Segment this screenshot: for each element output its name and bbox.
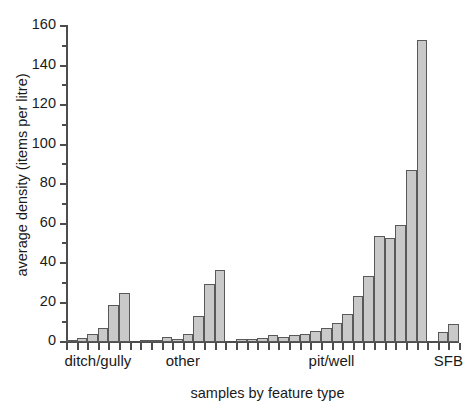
bar (321, 328, 332, 342)
bar (363, 276, 374, 342)
bar (332, 323, 343, 342)
x-tick-mark (321, 343, 323, 350)
x-tick-mark (385, 343, 387, 350)
x-tick-mark (278, 343, 280, 350)
x-tick-mark (395, 343, 397, 350)
x-tick-mark (225, 343, 227, 350)
bar (395, 225, 406, 342)
group-label-sfb: SFB (434, 352, 463, 369)
x-tick-mark (438, 343, 440, 350)
bar (406, 170, 417, 342)
x-tick-mark (98, 343, 100, 350)
x-tick-mark (289, 343, 291, 350)
bar (162, 337, 173, 342)
y-tick-label: 20 (40, 293, 56, 309)
bar (268, 335, 279, 342)
x-tick-mark (374, 343, 376, 350)
x-tick-mark (363, 343, 365, 350)
bar (151, 340, 162, 342)
x-tick-mark (300, 343, 302, 350)
bar-chart: average density (items per litre) 020406… (0, 0, 469, 419)
bar (417, 40, 428, 342)
bar (204, 284, 215, 342)
bar (66, 340, 77, 342)
bar (87, 334, 98, 342)
x-tick-mark (193, 343, 195, 350)
group-label-pit-well: pit/well (309, 352, 355, 369)
bars-layer (66, 25, 459, 342)
x-tick-mark (268, 343, 270, 350)
y-tick-label: 60 (40, 214, 56, 230)
bar (278, 337, 289, 342)
y-tick-label: 80 (40, 174, 56, 190)
x-tick-mark (162, 343, 164, 350)
x-tick-mark (204, 343, 206, 350)
bar (300, 334, 311, 342)
x-tick-mark (342, 343, 344, 350)
bar (448, 324, 459, 342)
bar (236, 339, 247, 342)
bar (193, 316, 204, 342)
bar (353, 296, 364, 342)
x-tick-mark (172, 343, 174, 350)
x-tick-mark (406, 343, 408, 350)
x-tick-mark (66, 343, 68, 350)
y-tick-label: 0 (48, 332, 56, 348)
x-tick-mark (183, 343, 185, 350)
x-tick-mark (108, 343, 110, 350)
bar (374, 236, 385, 342)
bar (98, 328, 109, 342)
bar (257, 338, 268, 342)
x-tick-mark (310, 343, 312, 350)
bar (172, 339, 183, 342)
y-tick-label: 100 (32, 135, 56, 151)
bar (215, 270, 226, 342)
x-tick-mark (77, 343, 79, 350)
group-label-ditch-gully: ditch/gully (65, 352, 132, 369)
x-tick-mark (215, 343, 217, 350)
y-tick-label: 40 (40, 253, 56, 269)
bar (342, 314, 353, 342)
x-tick-mark (130, 343, 132, 350)
y-tick-label: 160 (32, 16, 56, 32)
x-tick-mark (151, 343, 153, 350)
x-axis-title: samples by feature type (66, 385, 469, 401)
bar (108, 305, 119, 342)
x-tick-mark (332, 343, 334, 350)
bar (140, 340, 151, 342)
y-tick-label: 140 (32, 56, 56, 72)
bar (385, 238, 396, 342)
x-tick-mark (417, 343, 419, 350)
x-tick-mark (247, 343, 249, 350)
x-tick-mark (353, 343, 355, 350)
bar (310, 331, 321, 342)
x-tick-mark (427, 343, 429, 350)
x-tick-mark (119, 343, 121, 350)
bar (438, 332, 449, 342)
x-tick-mark (140, 343, 142, 350)
x-tick-mark (87, 343, 89, 350)
bar (289, 335, 300, 342)
x-tick-mark (236, 343, 238, 350)
x-tick-mark (459, 343, 461, 350)
group-label-other: other (166, 352, 200, 369)
y-tick-label: 120 (32, 95, 56, 111)
bar (119, 293, 130, 342)
x-tick-mark (448, 343, 450, 350)
bar (183, 334, 194, 342)
bar (247, 339, 258, 342)
bar (77, 338, 88, 342)
x-tick-mark (257, 343, 259, 350)
